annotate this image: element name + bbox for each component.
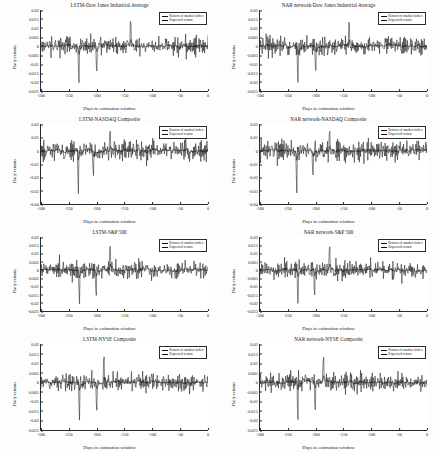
legend-entry-expected: Expected return [162,132,204,137]
legend-label-expected: Expected return [169,245,192,250]
x-tick-label: -300 [37,430,45,437]
x-tick-label: 0 [426,311,428,318]
x-tick-label: -200 [93,204,101,211]
figure-sheet: LSTM-Dow Jones Industrial AverageDaily r… [0,0,438,453]
x-tick-label: -300 [256,91,264,98]
plot-area: Return of market indexExpected return0.0… [40,344,208,431]
subplot-3: LSTM-NASDAQ CompositeDaily returnsDays i… [0,114,219,227]
y-tick-label: 0.02 [31,8,41,13]
x-tick-label: -150 [340,91,348,98]
x-tick-text: -200 [93,432,101,437]
y-tick-label: 0.02 [31,235,41,240]
y-tick-text: 0.005 [248,35,258,40]
y-tick-label: -0.01 [249,399,260,404]
x-tick-label: -150 [340,430,348,437]
y-tick-text: -0.015 [247,408,258,413]
y-tick-text: 0.01 [31,25,39,30]
y-tick-text: 0.01 [250,25,258,30]
x-tick-label: -150 [121,430,129,437]
y-tick-label: 0.005 [29,35,41,40]
y-tick-text: -0.01 [30,284,39,289]
x-tick-text: -50 [177,206,183,211]
y-tick-text: -0.01 [249,162,258,167]
subplot-5: LSTM-S&P 500Daily returnsDays in estimat… [0,227,219,334]
y-tick-label: 0.015 [248,16,260,21]
x-axis-label: Days in estimation window [219,445,438,450]
y-tick-text: -0.01 [249,62,258,67]
y-tick-label: -0.015 [247,408,260,413]
legend-swatch-expected-icon [381,20,387,22]
y-tick-text: -0.02 [30,175,39,180]
x-tick-text: -250 [65,93,73,98]
x-tick-text: 0 [426,313,428,318]
x-tick-label: -200 [93,430,101,437]
legend-swatch-market-icon [162,130,168,131]
y-tick-label: -0.02 [30,418,41,423]
legend-swatch-market-icon [381,350,387,351]
y-tick-label: 0.015 [29,243,41,248]
y-tick-text: -0.02 [249,175,258,180]
y-tick-text: 0 [256,148,258,153]
y-tick-label: 0 [37,43,41,48]
x-tick-text: -300 [256,313,264,318]
x-tick-text: 0 [426,432,428,437]
y-tick-label: -0.02 [30,300,41,305]
y-tick-label: 0.02 [250,122,260,127]
x-tick-label: -50 [396,430,402,437]
x-tick-text: -150 [121,313,129,318]
legend-swatch-expected-icon [381,134,387,136]
legend: Return of market indexExpected return [378,239,426,253]
x-tick-label: 0 [207,91,209,98]
legend-entry-expected: Expected return [381,132,423,137]
x-tick-text: -300 [37,313,45,318]
y-tick-text: -0.015 [247,292,258,297]
x-tick-text: -50 [396,206,402,211]
y-tick-text: 0.01 [31,361,39,366]
legend-label-expected: Expected return [169,352,192,357]
plot-area: Return of market indexExpected return0.0… [259,344,427,431]
legend-swatch-expected-icon [162,134,168,136]
x-tick-text: -150 [121,206,129,211]
legend: Return of market indexExpected return [378,346,426,360]
y-tick-label: 0 [256,148,260,153]
x-tick-label: -100 [367,311,375,318]
y-tick-text: -0.005 [247,53,258,58]
x-tick-text: -150 [340,93,348,98]
x-tick-label: -250 [284,311,292,318]
y-axis-label: Daily returns [231,158,236,182]
plot-area: Return of market indexExpected return0.0… [259,237,427,312]
x-tick-label: -50 [177,311,183,318]
y-tick-label: -0.015 [28,292,41,297]
y-axis-label: Daily returns [231,381,236,405]
y-axis-label: Daily returns [12,268,17,292]
x-tick-text: -200 [312,432,320,437]
x-tick-label: -250 [65,204,73,211]
y-tick-text: 0.02 [31,122,39,127]
y-tick-label: 0.005 [29,370,41,375]
y-tick-label: -0.005 [247,389,260,394]
x-tick-label: -100 [148,311,156,318]
y-tick-text: 0.015 [29,243,39,248]
y-tick-text: 0.02 [250,235,258,240]
y-tick-text: 0 [37,380,39,385]
y-tick-text: 0.015 [29,351,39,356]
legend-label-expected: Expected return [388,352,411,357]
y-tick-text: 0.005 [29,35,39,40]
x-tick-text: -250 [284,432,292,437]
y-tick-text: 0.015 [248,243,258,248]
y-tick-text: -0.005 [28,276,39,281]
x-tick-text: -300 [37,432,45,437]
y-tick-label: -0.01 [30,62,41,67]
y-tick-label: -0.01 [30,162,41,167]
y-axis-label: Daily returns [12,45,17,69]
y-tick-text: 0 [37,148,39,153]
y-tick-label: -0.02 [30,79,41,84]
x-tick-label: -50 [396,311,402,318]
x-tick-label: -50 [177,430,183,437]
y-tick-text: 0.005 [29,370,39,375]
y-tick-text: -0.015 [247,71,258,76]
x-tick-label: -100 [148,430,156,437]
x-tick-text: -150 [121,93,129,98]
x-tick-label: -100 [148,204,156,211]
legend-entry-expected: Expected return [162,352,204,357]
